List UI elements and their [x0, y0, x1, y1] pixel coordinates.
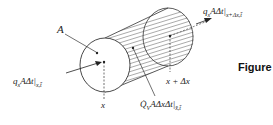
x-plus-dx-label: x + Δx: [166, 77, 190, 86]
inflow-label: qxAΔt|x,t̄: [13, 77, 42, 88]
front-face: [80, 38, 130, 92]
area-label: A: [57, 24, 64, 35]
generation-label: Q̇VAΔxΔt|x̄,t̄: [140, 100, 181, 111]
figure-caption: Figure: [238, 62, 272, 73]
back-face: [143, 8, 193, 66]
cylinder-diagram: [0, 0, 273, 125]
x-position-label: x: [101, 101, 105, 110]
outflow-label: qxAΔt|x+Δx,t̄: [203, 7, 242, 18]
